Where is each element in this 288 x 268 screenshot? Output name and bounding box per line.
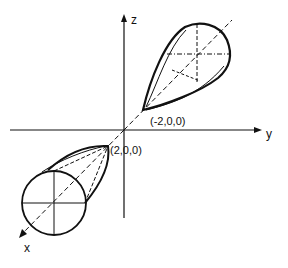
point-label-neg2: (-2,0,0) bbox=[150, 115, 185, 127]
y-axis-label: y bbox=[266, 127, 272, 141]
x-axis-label: x bbox=[24, 241, 30, 255]
z-axis-label: z bbox=[131, 13, 137, 27]
z-axis bbox=[121, 14, 127, 218]
diagram-canvas: z y x (-2,0,0) (2,0,0) bbox=[0, 0, 288, 268]
point-label-pos2: (2,0,0) bbox=[110, 144, 142, 156]
y-axis bbox=[10, 127, 262, 133]
x-axis bbox=[19, 20, 232, 238]
